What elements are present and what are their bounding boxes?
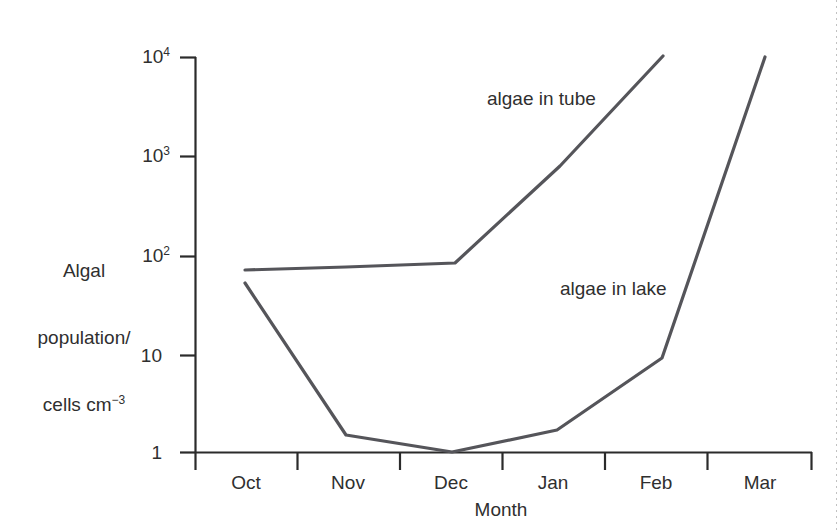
y-axis-title-line-1: Algal [18, 260, 150, 282]
x-axis-title: Month [451, 499, 551, 521]
y-axis-title-line-2: population/ [18, 327, 150, 349]
series-annotation-algae-in-lake: algae in lake [560, 278, 667, 300]
x-tick-marks [196, 452, 812, 470]
x-tick-label-oct: Oct [206, 472, 286, 494]
x-tick-label-feb: Feb [616, 472, 696, 494]
y-tick-label-10000: 104 [104, 46, 170, 68]
series-line-algae-in-tube [245, 56, 663, 270]
x-tick-label-dec: Dec [411, 472, 491, 494]
y-axis-title: Algal population/ cells cm−3 [18, 215, 150, 461]
x-tick-label-mar: Mar [720, 472, 800, 494]
series-line-algae-in-lake [245, 57, 765, 452]
y-tick-label-1000: 103 [104, 145, 170, 167]
y-tick-marks [180, 58, 196, 453]
chart-figure: 104 103 102 10 1 Algal population/ cells… [0, 0, 837, 532]
series-annotation-algae-in-tube: algae in tube [487, 88, 596, 110]
x-tick-label-jan: Jan [513, 472, 593, 494]
x-tick-label-nov: Nov [308, 472, 388, 494]
y-axis-title-line-3: cells cm−3 [18, 394, 150, 416]
